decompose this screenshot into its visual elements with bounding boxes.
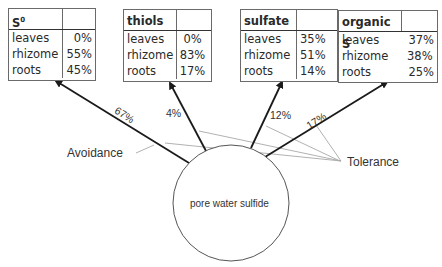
table-s0: S0 leaves0% rhizome55% roots45% xyxy=(8,8,96,81)
avoidance-label: Avoidance xyxy=(67,146,123,160)
table-row: leaves35% xyxy=(241,31,337,47)
table-row: leaves0% xyxy=(124,31,211,47)
table-title: thiols xyxy=(124,10,177,30)
table-row: rhizome38% xyxy=(339,48,437,64)
table-row: leaves37% xyxy=(339,32,437,48)
table-row: roots17% xyxy=(124,63,211,79)
table-sulfate: sulfate leaves35% rhizome51% roots14% xyxy=(240,9,338,82)
arrow-percent-sulfate: 12% xyxy=(270,109,291,121)
tolerance-label: Tolerance xyxy=(347,155,399,169)
pore-water-sulfide-label: pore water sulfide xyxy=(190,198,269,209)
table-title: sulfate xyxy=(241,10,297,30)
table-row: rhizome83% xyxy=(124,47,211,63)
table-title: organic S xyxy=(339,11,402,31)
table-row: leaves0% xyxy=(9,30,95,46)
table-row: roots45% xyxy=(9,62,95,78)
table-organic-s: organic S leaves37% rhizome38% roots25% xyxy=(338,10,438,83)
table-row: rhizome55% xyxy=(9,46,95,62)
avoidance-callout-line xyxy=(136,145,154,153)
table-row: rhizome51% xyxy=(241,47,337,63)
arrow-percent-thiols: 4% xyxy=(166,107,181,119)
table-title: S0 xyxy=(9,9,63,29)
table-row: roots14% xyxy=(241,63,337,79)
table-row: roots25% xyxy=(339,64,437,80)
table-thiols: thiols leaves0% rhizome83% roots17% xyxy=(123,9,212,82)
